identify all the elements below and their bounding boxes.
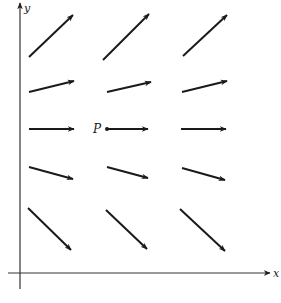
slope-arrow-r4-c3 [182,168,225,180]
slope-arrow-r1-c3 [183,15,227,56]
x-axis-label: x [273,267,280,280]
slope-arrows [28,14,227,251]
slope-arrow-r4-c1 [29,167,73,179]
slope-arrow-r1-c1 [29,15,73,57]
point-p-dot [105,127,109,131]
slope-arrow-r5-c3 [180,209,225,251]
slope-arrow-r1-c2 [103,14,149,60]
slope-arrow-r2-c3 [182,81,227,92]
slope-arrow-r2-c1 [29,81,74,92]
slope-arrow-r2-c2 [107,82,151,92]
point-p: P [92,122,109,136]
slope-arrow-r5-c1 [28,208,71,250]
y-axis-label: y [23,2,31,15]
slope-arrow-r5-c2 [106,210,147,249]
point-p-label: P [92,122,102,136]
direction-field-figure: x y P [0,0,281,303]
slope-arrow-r4-c2 [107,167,148,178]
